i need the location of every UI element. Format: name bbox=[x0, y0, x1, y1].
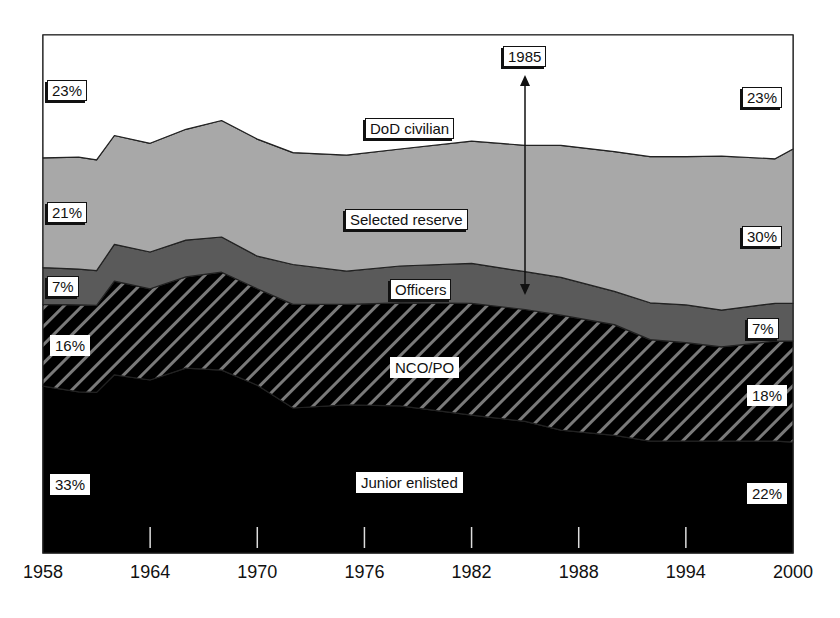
left-pct-selected-reserve: 21% bbox=[47, 202, 87, 223]
x-tick-label: 2000 bbox=[773, 562, 813, 583]
label-dod-civilian: DoD civilian bbox=[365, 118, 454, 139]
right-pct-officers: 7% bbox=[747, 318, 779, 339]
x-tick-label: 1994 bbox=[666, 562, 706, 583]
left-pct-junior-enlisted: 33% bbox=[50, 474, 90, 495]
left-pct-nco-po: 16% bbox=[50, 335, 90, 356]
right-pct-dod-civilian: 23% bbox=[742, 87, 782, 108]
left-pct-officers: 7% bbox=[47, 276, 79, 297]
label-marker-year: 1985 bbox=[503, 46, 546, 67]
label-officers: Officers bbox=[390, 279, 451, 300]
right-pct-junior-enlisted: 22% bbox=[747, 483, 787, 504]
right-pct-selected-reserve: 30% bbox=[742, 226, 782, 247]
right-pct-nco-po: 18% bbox=[747, 385, 787, 406]
label-selected-reserve: Selected reserve bbox=[345, 209, 468, 230]
x-tick-label: 1982 bbox=[452, 562, 492, 583]
x-tick-label: 1976 bbox=[344, 562, 384, 583]
stacked-area-chart bbox=[0, 0, 840, 618]
x-tick-label: 1964 bbox=[130, 562, 170, 583]
left-pct-dod-civilian: 23% bbox=[47, 80, 87, 101]
x-tick-label: 1970 bbox=[237, 562, 277, 583]
label-nco-po: NCO/PO bbox=[390, 357, 459, 378]
x-tick-label: 1988 bbox=[559, 562, 599, 583]
label-junior-enlisted: Junior enlisted bbox=[356, 472, 463, 493]
area-dod-civilian bbox=[43, 35, 793, 160]
x-tick-label: 1958 bbox=[23, 562, 63, 583]
